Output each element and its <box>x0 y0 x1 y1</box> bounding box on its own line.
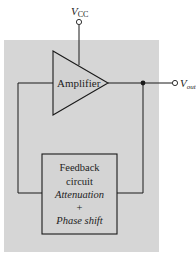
feedback-label-line3: Attenuation <box>54 189 104 200</box>
feedback-label-line4: + <box>77 202 83 213</box>
feedback-label-line2: circuit <box>66 176 93 187</box>
junction-dot-icon <box>141 81 146 86</box>
output-terminal-icon <box>172 80 177 85</box>
feedback-label-line1: Feedback <box>59 162 100 173</box>
amplifier-label: Amplifier <box>57 77 101 89</box>
supply-terminal-icon <box>76 19 81 24</box>
supply-label: VCC <box>71 5 88 19</box>
feedback-label-line5: Phase shift <box>55 215 103 226</box>
output-label: Vout <box>180 77 196 91</box>
oscillator-block-diagram: VCC Vout Amplifier Feedback circuit Atte… <box>0 0 196 265</box>
